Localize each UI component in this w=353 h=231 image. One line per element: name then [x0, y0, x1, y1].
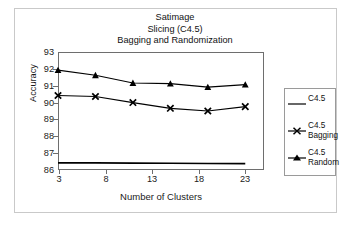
legend-label-c45-random: C4.5 Random: [308, 148, 338, 167]
x-tick-label: 23: [232, 174, 258, 184]
legend-label-line: Random: [308, 158, 338, 168]
legend-label-line: Bagging: [308, 131, 338, 141]
x-tick-label: 18: [186, 174, 212, 184]
chart-figure: Satimage Slicing (C4.5) Bagging and Rand…: [0, 0, 353, 231]
chart-legend: C4.5 C4.5 Bagging C4.5 Random: [284, 88, 336, 176]
legend-item-c45: C4.5: [285, 95, 335, 121]
legend-line-sample-x: [287, 126, 307, 136]
x-tick-label: 3: [46, 174, 72, 184]
legend-label-c45-bagging: C4.5 Bagging: [308, 121, 338, 140]
legend-item-c45-bagging: C4.5 Bagging: [285, 122, 335, 148]
x-tick-label: 13: [139, 174, 165, 184]
x-tick-label: 8: [93, 174, 119, 184]
legend-line-sample-triangle: [287, 153, 307, 163]
legend-line-sample-plain: [287, 99, 307, 109]
legend-item-c45-random: C4.5 Random: [285, 149, 335, 175]
legend-label-c45: C4.5: [308, 94, 338, 104]
legend-label-line: C4.5: [308, 94, 338, 104]
legend-label-line: C4.5: [308, 148, 338, 158]
x-axis-label: Number of Clusters: [58, 191, 264, 202]
legend-label-line: C4.5: [308, 121, 338, 131]
